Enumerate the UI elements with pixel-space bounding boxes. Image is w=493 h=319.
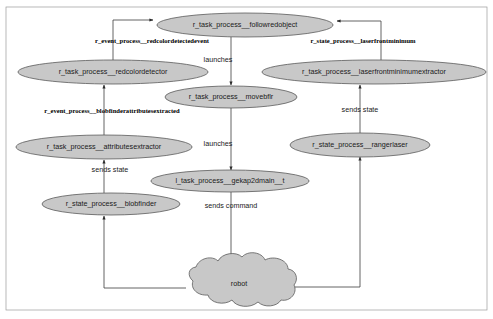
edge-robot-to-blobfinder	[104, 216, 186, 288]
diagram-canvas: r_task_process__followredobject r_task_p…	[0, 0, 493, 319]
node-label: r_task_process__laserfrontminimumextract…	[302, 67, 446, 76]
node-gekap2dmain[interactable]: l_task_process__gekap2dmain__t	[151, 170, 309, 192]
process-architecture-diagram: r_task_process__followredobject r_task_p…	[0, 0, 493, 319]
edge-label-redcolordetectedevent: r_event_process__redcolordetectedevent	[95, 37, 210, 44]
node-robot[interactable]: robot	[189, 253, 296, 307]
edge-label-sends-state-left: sends state	[92, 165, 129, 174]
node-laserfrontminimumextractor[interactable]: r_task_process__laserfrontminimumextract…	[262, 60, 486, 84]
node-label: r_task_process__redcolordetector	[59, 67, 168, 76]
node-layer: r_task_process__followredobject r_task_p…	[16, 13, 486, 306]
node-label: robot	[231, 279, 247, 288]
edge-label-sends-state-right: sends state	[342, 105, 379, 114]
node-label: r_task_process__attributesextractor	[47, 142, 162, 151]
edge-label-sends-command: sends command	[205, 201, 258, 210]
node-label: r_state_process__blobfinder	[66, 199, 157, 208]
node-blobfinder[interactable]: r_state_process__blobfinder	[42, 193, 180, 215]
node-label: r_task_process__followredobject	[193, 20, 298, 29]
edge-label-blobfinderattributesextracted: r_event_process__blobfinderattributesext…	[44, 107, 180, 114]
edge-label-launches-top: launches	[204, 55, 233, 64]
edge-label-laserfrontminimum: r_state_process__laserfrontminimum	[310, 37, 416, 44]
node-label: l_task_process__gekap2dmain__t	[175, 176, 284, 185]
node-rangerlaser[interactable]: r_state_process__rangerlaser	[290, 133, 430, 157]
edge-label-launches-bottom: launches	[204, 139, 233, 148]
node-movebflr[interactable]: r_task_process__movebflr	[165, 86, 297, 108]
node-attributesextractor[interactable]: r_task_process__attributesextractor	[16, 135, 192, 159]
node-redcolordetector[interactable]: r_task_process__redcolordetector	[18, 60, 208, 84]
node-followredobject[interactable]: r_task_process__followredobject	[157, 13, 333, 37]
node-label: r_task_process__movebflr	[189, 92, 274, 101]
node-label: r_state_process__rangerlaser	[312, 140, 408, 149]
